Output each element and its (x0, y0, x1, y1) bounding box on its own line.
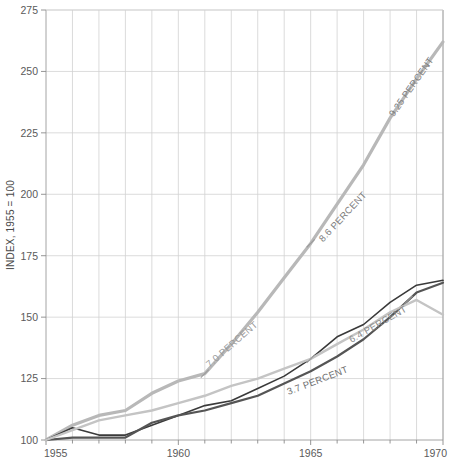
y-tick-label: 275 (20, 4, 38, 16)
line-chart: 1001251501752002252502751955196019651970… (0, 0, 456, 468)
y-tick-label: 250 (20, 65, 38, 77)
series-line-steep-growth-series (46, 42, 443, 440)
series-line-upper-dark-series (46, 280, 443, 440)
y-tick-label: 200 (20, 188, 38, 200)
chart-container: 1001251501752002252502751955196019651970… (0, 0, 456, 468)
y-tick-label: 150 (20, 311, 38, 323)
annotation-9-25-percent: 9.25 PERCENT (386, 55, 435, 119)
y-tick-label: 125 (20, 372, 38, 384)
x-tick-label: 1965 (299, 447, 323, 459)
y-tick-label: 100 (20, 434, 38, 446)
x-tick-label: 1970 (424, 447, 448, 459)
x-tick-label: 1960 (167, 447, 191, 459)
x-tick-label: 1955 (44, 447, 68, 459)
y-tick-label: 175 (20, 250, 38, 262)
series-line-mid-dark-series (46, 283, 443, 440)
y-tick-label: 225 (20, 127, 38, 139)
annotation-6-4-percent: 6.4 PERCENT (347, 303, 408, 345)
y-axis-title: INDEX, 1955 = 100 (5, 180, 16, 270)
